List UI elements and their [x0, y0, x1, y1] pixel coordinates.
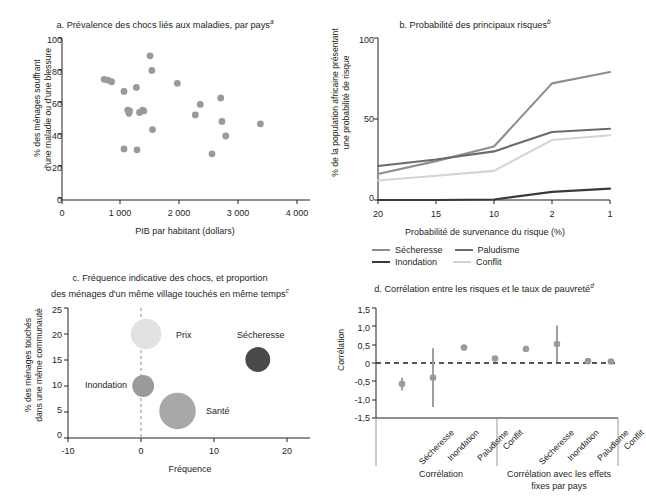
panel-d-group-label-fixed-effects-line1: Corrélation avec les effets [507, 469, 611, 479]
legend-swatch-paludisme-icon [455, 249, 473, 251]
panel-b-plot [320, 0, 634, 280]
panel-d-correlation-poverty: d. Corrélation entre les risques et le t… [330, 270, 634, 499]
panel-a-data-point [192, 112, 199, 119]
panel-b-legend-label-conflit: Conflit [476, 257, 502, 267]
panel-a-data-point [149, 67, 156, 74]
panel-d-estimate-marker [399, 381, 406, 388]
panel-a-data-point [133, 84, 140, 91]
panel-a-data-point [140, 108, 147, 115]
panel-c-plot [0, 260, 330, 499]
panel-c-bubble [132, 375, 154, 397]
panel-d-estimate-marker [523, 346, 530, 353]
panel-b-legend-label-inondation: Inondation [395, 257, 437, 267]
panel-b-legend-item-paludisme: Paludisme [455, 245, 532, 255]
legend-swatch-secheresse-icon [372, 249, 390, 251]
panel-c-bubble-label-prix: Prix [176, 330, 192, 340]
panel-a-data-point [222, 133, 229, 140]
panel-c-bubble [131, 319, 162, 350]
panel-d-estimate-marker [608, 358, 615, 365]
panel-c-shock-frequency-bubbles: c. Fréquence indicative des chocs, et pr… [0, 260, 330, 499]
panel-a-data-point [108, 78, 115, 85]
panel-c-bubble [245, 347, 270, 372]
panel-d-estimate-marker [554, 341, 561, 348]
panel-a-data-point [209, 150, 216, 157]
panel-a-data-point [257, 120, 264, 127]
panel-c-bubble-label-inondation: Inondation [85, 380, 127, 390]
panel-d-estimate-marker [585, 358, 592, 365]
panel-d-plot [330, 270, 634, 499]
panel-b-legend-label-secheresse: Sécheresse [395, 245, 443, 255]
panel-b-legend-label-paludisme: Paludisme [478, 245, 520, 255]
panel-b-legend-item-inondation: Inondation [372, 257, 453, 267]
panel-a-data-point [197, 101, 204, 108]
panel-a-data-point [121, 88, 128, 95]
panel-c-bubble [159, 393, 196, 430]
panel-b-legend: Sécheresse Paludisme Inondation Conflit [372, 245, 612, 267]
panel-b-legend-item-secheresse: Sécheresse [372, 245, 455, 255]
panel-a-data-point [147, 52, 154, 59]
panel-a-data-point [126, 108, 133, 115]
panel-b-series-line [378, 72, 610, 174]
panel-d-estimate-marker [492, 355, 499, 362]
panel-a-data-point [121, 146, 128, 153]
panel-a-data-point [149, 126, 156, 133]
panel-b-risk-probability-lines: b. Probabilité des principaux risquesb %… [320, 0, 634, 280]
panel-b-legend-row-2: Inondation Conflit [372, 257, 612, 267]
panel-a-plot [0, 0, 320, 250]
panel-a-data-point [217, 95, 224, 102]
panel-a-data-point [219, 118, 226, 125]
legend-swatch-conflit-icon [453, 261, 471, 263]
panel-d-estimate-marker [461, 344, 468, 351]
panel-b-series-line [378, 135, 610, 180]
panel-b-legend-item-conflit: Conflit [453, 257, 514, 267]
panel-d-group-label-correlation: Corrélation [386, 468, 496, 480]
panel-a-prevalence-scatter: a. Prévalence des chocs liés aux maladie… [0, 0, 320, 250]
panel-b-legend-row-1: Sécheresse Paludisme [372, 245, 612, 255]
panel-b-series-line [378, 189, 610, 200]
panel-c-bubble-label-sante: Santé [206, 406, 230, 416]
legend-swatch-inondation-icon [372, 261, 390, 263]
panel-d-group-label-fixed-effects-line2: fixes par pays [531, 481, 587, 491]
panel-a-data-point [134, 146, 141, 153]
panel-a-data-point [174, 80, 181, 87]
panel-c-bubble-label-secheresse: Sécheresse [237, 330, 285, 340]
panel-d-estimate-marker [430, 374, 437, 381]
panel-d-group-label-fixed-effects: Corrélation avec les effets fixes par pa… [498, 468, 620, 492]
